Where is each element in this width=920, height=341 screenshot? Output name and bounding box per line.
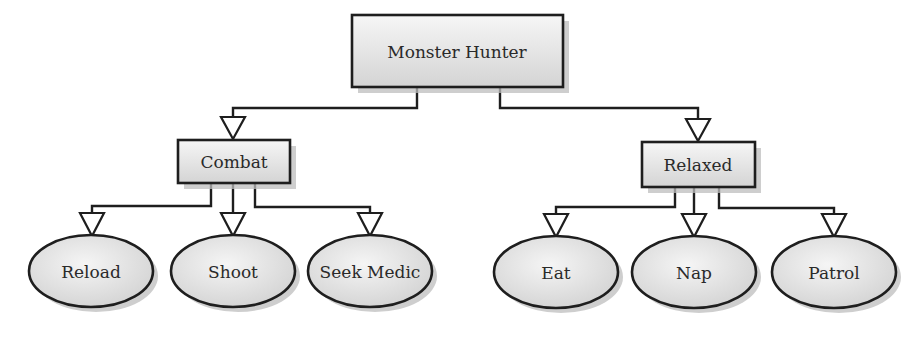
arrow-head-icon	[682, 214, 706, 237]
arrow-head-icon	[80, 213, 104, 236]
node-state-relaxed[interactable]: Relaxed	[642, 142, 761, 193]
edge-relaxed-to-patrol	[719, 187, 846, 237]
arrow-head-icon	[544, 214, 568, 237]
arrow-head-icon	[686, 119, 710, 141]
node-label: Patrol	[808, 263, 859, 283]
edge-root-to-relaxed	[500, 87, 710, 141]
node-root-monster-hunter[interactable]: Monster Hunter	[352, 15, 569, 93]
node-label: Combat	[200, 152, 267, 172]
arrow-head-icon	[221, 213, 245, 236]
node-label: Nap	[676, 263, 712, 283]
node-action-reload[interactable]: Reload	[29, 235, 158, 312]
arrow-head-icon	[221, 117, 245, 139]
node-action-patrol[interactable]: Patrol	[772, 236, 901, 313]
node-label: Reload	[61, 262, 121, 282]
node-label: Seek Medic	[320, 262, 421, 282]
node-action-shoot[interactable]: Shoot	[171, 235, 300, 312]
arrow-head-icon	[358, 213, 382, 236]
node-label: Eat	[541, 263, 571, 283]
arrow-head-icon	[822, 214, 846, 237]
node-label: Relaxed	[664, 155, 733, 175]
edge-relaxed-to-nap	[682, 187, 706, 237]
node-action-nap[interactable]: Nap	[632, 236, 761, 313]
edge-root-to-combat	[221, 87, 417, 139]
node-action-eat[interactable]: Eat	[494, 236, 623, 313]
node-state-combat[interactable]: Combat	[178, 140, 296, 189]
edge-combat-to-seek-medic	[255, 183, 382, 236]
edge-combat-to-reload	[80, 183, 211, 236]
edge-combat-to-shoot	[221, 183, 245, 236]
behavior-tree-diagram: Monster Hunter Combat Relaxed Reload Sho…	[0, 0, 920, 341]
node-label: Shoot	[208, 262, 258, 282]
edge-relaxed-to-eat	[544, 187, 675, 237]
node-label: Monster Hunter	[387, 42, 527, 62]
node-action-seek-medic[interactable]: Seek Medic	[308, 235, 437, 312]
